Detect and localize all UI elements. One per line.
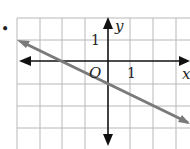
x-tick-label: 1 [127, 65, 136, 81]
graphed-line [24, 43, 187, 122]
x-axis-left-arrow-icon [19, 56, 31, 66]
origin-label: O [89, 64, 101, 82]
line-left-arrow-icon [17, 40, 30, 48]
coordinate-graph: 1 y O 1 x [0, 0, 190, 149]
grid [17, 18, 190, 149]
y-tick-label: 1 [91, 32, 100, 48]
line-right-arrow-icon [178, 115, 190, 124]
y-axis-up-arrow-icon [103, 17, 113, 29]
x-axis-label: x [182, 65, 190, 83]
y-axis-down-arrow-icon [103, 134, 113, 146]
y-axis-label: y [114, 17, 124, 35]
